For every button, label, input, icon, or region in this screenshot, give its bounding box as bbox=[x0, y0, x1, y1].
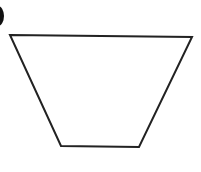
label-marker-icon bbox=[0, 6, 4, 26]
trapezoid-shape bbox=[10, 35, 192, 147]
diagram-canvas bbox=[0, 0, 201, 172]
